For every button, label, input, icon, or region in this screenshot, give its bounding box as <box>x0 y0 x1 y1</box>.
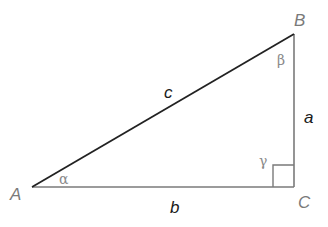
vertex-c-label: C <box>298 193 311 212</box>
side-c-label: c <box>164 83 173 102</box>
vertex-b-label: B <box>294 11 305 30</box>
angle-beta-label: β <box>277 52 285 68</box>
side-b-label: b <box>170 198 179 217</box>
right-triangle-diagram: A B C c a b α β γ <box>0 0 328 227</box>
angle-gamma-label: γ <box>259 153 267 169</box>
side-c-line <box>32 34 294 187</box>
angle-alpha-label: α <box>59 171 69 187</box>
vertex-a-label: A <box>9 185 21 204</box>
side-a-label: a <box>304 108 313 127</box>
right-angle-marker <box>273 165 294 187</box>
